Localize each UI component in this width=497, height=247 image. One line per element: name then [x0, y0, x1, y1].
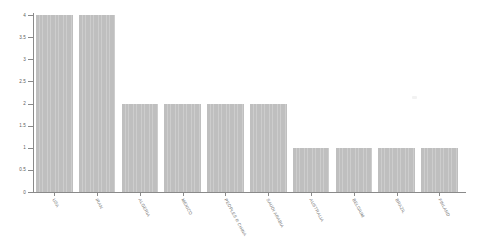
- x-axis-tick: [97, 192, 98, 196]
- x-axis-tick-label: USA: [52, 198, 60, 208]
- bar[interactable]: [164, 104, 201, 193]
- bar[interactable]: [378, 148, 415, 192]
- bar[interactable]: [36, 15, 73, 192]
- x-axis-tick: [140, 192, 141, 196]
- bar[interactable]: [122, 104, 159, 193]
- bar[interactable]: [293, 148, 330, 192]
- y-axis-tick: 0: [28, 192, 33, 193]
- bar[interactable]: [207, 104, 244, 193]
- x-axis-tick-label: PEOPLES R CHINA: [223, 198, 247, 237]
- background-artifact: [412, 96, 417, 99]
- x-axis-tick-label: ALGERIA: [137, 198, 150, 218]
- x-axis-tick-label: MEXICO: [180, 198, 192, 216]
- x-axis-tick: [439, 192, 440, 196]
- bars-layer: [0, 0, 497, 192]
- bar[interactable]: [421, 148, 458, 192]
- x-axis-tick: [354, 192, 355, 196]
- bar[interactable]: [79, 15, 116, 192]
- bar[interactable]: [250, 104, 287, 193]
- x-axis-tick: [311, 192, 312, 196]
- x-axis-tick-label: IRAN: [94, 198, 103, 210]
- x-axis-tick-label: SAUDI ARABIA: [266, 198, 285, 229]
- bar-chart: 00.511.522.533.54 USAIRANALGERIAMEXICOPE…: [0, 0, 497, 247]
- x-axis-tick-label: BRAZIL: [394, 198, 406, 214]
- x-axis-tick-label: BELGIUM: [351, 198, 365, 218]
- x-axis-tick: [54, 192, 55, 196]
- x-axis-tick: [225, 192, 226, 196]
- x-axis-tick: [268, 192, 269, 196]
- x-axis-tick: [183, 192, 184, 196]
- x-axis-tick-label: AUSTRALIA: [308, 198, 324, 223]
- x-axis-tick-label: FINLAND: [437, 198, 450, 218]
- x-axis-tick: [397, 192, 398, 196]
- bar[interactable]: [336, 148, 373, 192]
